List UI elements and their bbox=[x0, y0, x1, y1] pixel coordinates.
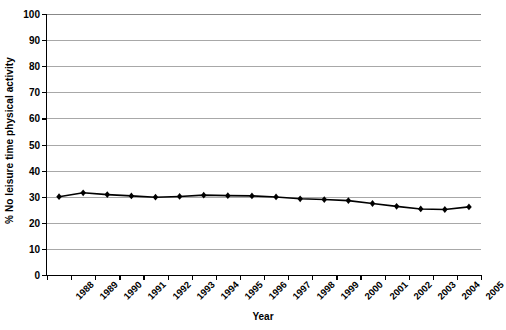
y-axis-tick-label: 40 bbox=[29, 165, 40, 176]
data-point-marker bbox=[273, 194, 279, 201]
y-axis-tick-label: 10 bbox=[29, 243, 40, 254]
data-point-marker bbox=[129, 193, 135, 200]
y-axis-tick-label: 60 bbox=[29, 113, 40, 124]
y-axis-tick-label: 80 bbox=[29, 61, 40, 72]
data-point-marker bbox=[225, 192, 231, 199]
y-axis-tick bbox=[42, 40, 47, 41]
y-axis-tick bbox=[42, 92, 47, 93]
y-axis-tick bbox=[42, 197, 47, 198]
y-axis-tick bbox=[42, 171, 47, 172]
x-axis-tick-label: 1995 bbox=[242, 279, 265, 302]
data-point-marker bbox=[56, 193, 62, 200]
series-polyline bbox=[59, 193, 469, 210]
data-point-marker bbox=[249, 193, 255, 200]
y-axis-tick bbox=[42, 223, 47, 224]
x-axis-tick-label: 1993 bbox=[194, 279, 217, 302]
x-axis-tick-labels: 1988198919901991199219931994199519961997… bbox=[46, 277, 482, 313]
data-point-marker bbox=[80, 189, 86, 196]
y-axis-tick-label: 50 bbox=[29, 139, 40, 150]
y-axis-tick bbox=[42, 66, 47, 67]
x-axis-tick-label: 1994 bbox=[218, 279, 241, 302]
y-axis-tick bbox=[42, 249, 47, 250]
data-point-marker bbox=[466, 203, 472, 210]
y-axis-tick-labels: 1009080706050403020100 bbox=[16, 0, 43, 282]
data-point-marker bbox=[442, 206, 448, 213]
x-axis-tick-label: 2003 bbox=[435, 279, 458, 302]
x-axis-tick-label: 2000 bbox=[363, 279, 386, 302]
y-axis-tick-label: 100 bbox=[23, 9, 40, 20]
data-point-marker bbox=[153, 194, 159, 201]
y-axis-tick bbox=[42, 14, 47, 15]
x-axis-tick-label: 1988 bbox=[73, 279, 96, 302]
x-axis-tick-label: 1990 bbox=[121, 279, 144, 302]
x-axis-tick-label: 1996 bbox=[266, 279, 289, 302]
x-axis-tick-label: 1998 bbox=[314, 279, 337, 302]
x-axis-tick-label: 1989 bbox=[97, 279, 120, 302]
y-axis-tick-label: 70 bbox=[29, 87, 40, 98]
data-point-marker bbox=[201, 192, 207, 199]
data-point-marker bbox=[346, 197, 352, 204]
series-line-chart bbox=[47, 14, 481, 275]
y-axis-tick-label: 20 bbox=[29, 217, 40, 228]
x-axis-tick-label: 2004 bbox=[459, 279, 482, 302]
y-axis-title-text: % No leisure time physical activity bbox=[4, 57, 15, 224]
data-point-marker bbox=[177, 193, 183, 200]
series-markers bbox=[56, 189, 471, 213]
y-axis-tick bbox=[42, 145, 47, 146]
y-axis-tick-label: 30 bbox=[29, 191, 40, 202]
data-point-marker bbox=[104, 191, 110, 198]
plot-area bbox=[46, 14, 481, 276]
x-axis-tick-label: 1999 bbox=[338, 279, 361, 302]
data-point-marker bbox=[297, 195, 303, 202]
y-axis-tick bbox=[42, 118, 47, 119]
data-point-marker bbox=[321, 196, 327, 203]
y-axis-tick-label: 90 bbox=[29, 35, 40, 46]
x-axis-tick-label: 1997 bbox=[290, 279, 313, 302]
x-axis-title: Year bbox=[46, 311, 480, 322]
x-axis-tick-label: 1991 bbox=[146, 279, 169, 302]
y-axis-tick-label: 0 bbox=[34, 270, 40, 281]
data-point-marker bbox=[370, 200, 376, 207]
x-axis-tick-label: 2005 bbox=[483, 279, 506, 302]
data-point-marker bbox=[394, 203, 400, 210]
x-axis-tick-label: 2002 bbox=[411, 279, 434, 302]
x-axis-tick-label: 2001 bbox=[387, 279, 410, 302]
x-axis-tick-label: 1992 bbox=[170, 279, 193, 302]
data-point-marker bbox=[418, 206, 424, 213]
